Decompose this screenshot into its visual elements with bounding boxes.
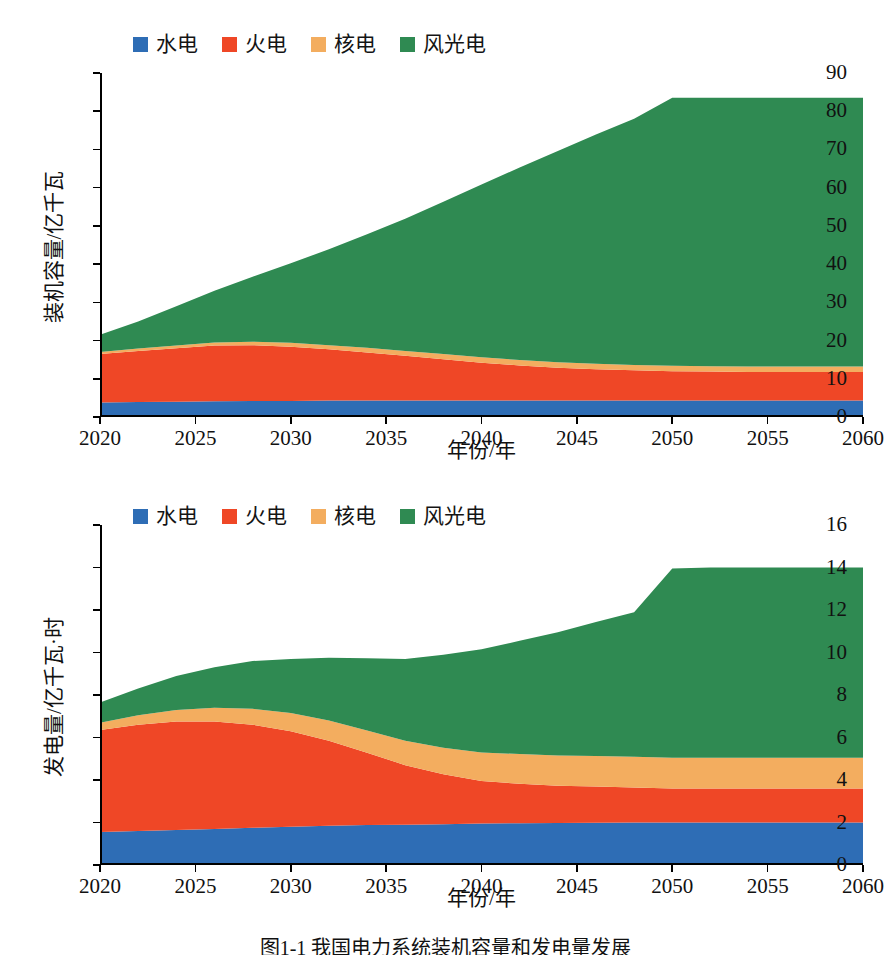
legend-item-hydro[interactable]: 水电 [133, 34, 198, 55]
y-tick-generation-10 [93, 652, 100, 654]
x-tick-capacity-2040 [481, 417, 483, 424]
legend-label-thermal: 火电 [245, 506, 287, 527]
legend-swatch-windsolar-icon [400, 37, 415, 52]
x-tick-capacity-2025 [195, 417, 197, 424]
x-tick-label-generation-2055: 2055 [747, 876, 789, 897]
legend-item-hydro[interactable]: 水电 [133, 506, 198, 527]
y-axis-label-bottom: 发电量/亿千瓦·时 [37, 617, 67, 777]
x-tick-label-capacity-2055: 2055 [747, 428, 789, 449]
y-axis-line-bottom [100, 525, 102, 865]
x-tick-label-generation-2045: 2045 [556, 876, 598, 897]
legend-swatch-windsolar-icon [400, 509, 415, 524]
y-tick-label-capacity-0: 0 [787, 406, 847, 427]
x-tick-label-capacity-2030: 2030 [270, 428, 312, 449]
legend-swatch-hydro-icon [133, 509, 148, 524]
y-tick-capacity-80 [93, 110, 100, 112]
x-tick-capacity-2030 [290, 417, 292, 424]
x-tick-generation-2060 [862, 865, 864, 872]
plot-area-power-generation: 发电量/亿千瓦·时 年份/年 0246810121416202020252030… [100, 525, 863, 865]
legend-swatch-thermal-icon [222, 509, 237, 524]
y-tick-label-generation-16: 16 [787, 514, 847, 535]
panel-power-generation: 水电火电核电风光电 发电量/亿千瓦·时 年份/年 024681012141620… [0, 488, 891, 955]
x-tick-capacity-2045 [576, 417, 578, 424]
y-tick-capacity-50 [93, 225, 100, 227]
x-tick-label-generation-2020: 2020 [79, 876, 121, 897]
y-tick-label-capacity-40: 40 [787, 253, 847, 274]
x-tick-capacity-2055 [767, 417, 769, 424]
y-tick-capacity-40 [93, 263, 100, 265]
y-tick-label-generation-0: 0 [787, 854, 847, 875]
x-tick-generation-2030 [290, 865, 292, 872]
x-tick-label-generation-2040: 2040 [461, 876, 503, 897]
y-tick-label-capacity-90: 90 [787, 62, 847, 83]
legend-swatch-hydro-icon [133, 37, 148, 52]
x-tick-label-capacity-2050: 2050 [651, 428, 693, 449]
figure-container: 水电火电核电风光电 装机容量/亿千瓦 年份/年 0102030405060708… [0, 0, 891, 955]
x-tick-capacity-2050 [671, 417, 673, 424]
y-tick-capacity-70 [93, 149, 100, 151]
panel-installed-capacity: 水电火电核电风光电 装机容量/亿千瓦 年份/年 0102030405060708… [0, 0, 891, 488]
y-tick-generation-8 [93, 694, 100, 696]
figure-caption: 图1-1 我国电力系统装机容量和发电量发展 [0, 932, 891, 955]
y-tick-label-capacity-80: 80 [787, 100, 847, 121]
x-tick-label-generation-2030: 2030 [270, 876, 312, 897]
legend-item-windsolar[interactable]: 风光电 [400, 506, 486, 527]
x-tick-label-generation-2025: 2025 [174, 876, 216, 897]
legend-label-nuclear: 核电 [334, 506, 376, 527]
legend-swatch-nuclear-icon [311, 509, 326, 524]
y-tick-label-generation-14: 14 [787, 557, 847, 578]
x-tick-label-capacity-2020: 2020 [79, 428, 121, 449]
y-tick-label-generation-6: 6 [787, 727, 847, 748]
y-tick-generation-4 [93, 779, 100, 781]
x-tick-label-generation-2050: 2050 [651, 876, 693, 897]
x-tick-label-capacity-2040: 2040 [461, 428, 503, 449]
x-tick-generation-2035 [385, 865, 387, 872]
y-tick-label-capacity-70: 70 [787, 138, 847, 159]
legend-installed-capacity: 水电火电核电风光电 [133, 31, 510, 57]
x-tick-generation-2055 [767, 865, 769, 872]
x-tick-label-capacity-2045: 2045 [556, 428, 598, 449]
y-tick-capacity-10 [93, 378, 100, 380]
y-tick-generation-2 [93, 822, 100, 824]
x-tick-label-generation-2035: 2035 [365, 876, 407, 897]
legend-swatch-nuclear-icon [311, 37, 326, 52]
legend-item-nuclear[interactable]: 核电 [311, 34, 376, 55]
legend-item-thermal[interactable]: 火电 [222, 34, 287, 55]
legend-label-windsolar: 风光电 [423, 506, 486, 527]
stacked-area-installed-capacity [100, 73, 863, 417]
y-tick-label-capacity-50: 50 [787, 215, 847, 236]
y-tick-label-capacity-20: 20 [787, 330, 847, 351]
stacked-area-power-generation [100, 525, 863, 865]
legend-label-hydro: 水电 [156, 506, 198, 527]
y-axis-label-top: 装机容量/亿千瓦 [37, 171, 67, 324]
legend-label-hydro: 水电 [156, 34, 198, 55]
y-tick-label-generation-12: 12 [787, 599, 847, 620]
x-tick-generation-2040 [481, 865, 483, 872]
legend-swatch-thermal-icon [222, 37, 237, 52]
y-tick-generation-14 [93, 567, 100, 569]
x-tick-generation-2050 [671, 865, 673, 872]
x-tick-label-generation-2060: 2060 [842, 876, 884, 897]
x-tick-label-capacity-2060: 2060 [842, 428, 884, 449]
y-tick-capacity-90 [93, 72, 100, 74]
legend-item-thermal[interactable]: 火电 [222, 506, 287, 527]
legend-label-thermal: 火电 [245, 34, 287, 55]
y-tick-generation-16 [93, 524, 100, 526]
y-tick-capacity-20 [93, 340, 100, 342]
x-tick-generation-2025 [195, 865, 197, 872]
legend-label-windsolar: 风光电 [423, 34, 486, 55]
y-tick-label-capacity-30: 30 [787, 291, 847, 312]
legend-label-nuclear: 核电 [334, 34, 376, 55]
x-tick-generation-2045 [576, 865, 578, 872]
y-tick-label-generation-2: 2 [787, 812, 847, 833]
legend-item-nuclear[interactable]: 核电 [311, 506, 376, 527]
y-tick-generation-6 [93, 737, 100, 739]
x-tick-generation-2020 [99, 865, 101, 872]
x-tick-label-capacity-2025: 2025 [174, 428, 216, 449]
legend-item-windsolar[interactable]: 风光电 [400, 34, 486, 55]
plot-area-installed-capacity: 装机容量/亿千瓦 年份/年 01020304050607080902020202… [100, 73, 863, 417]
x-tick-capacity-2060 [862, 417, 864, 424]
y-tick-label-generation-4: 4 [787, 769, 847, 790]
y-tick-label-generation-10: 10 [787, 642, 847, 663]
y-tick-label-capacity-10: 10 [787, 368, 847, 389]
